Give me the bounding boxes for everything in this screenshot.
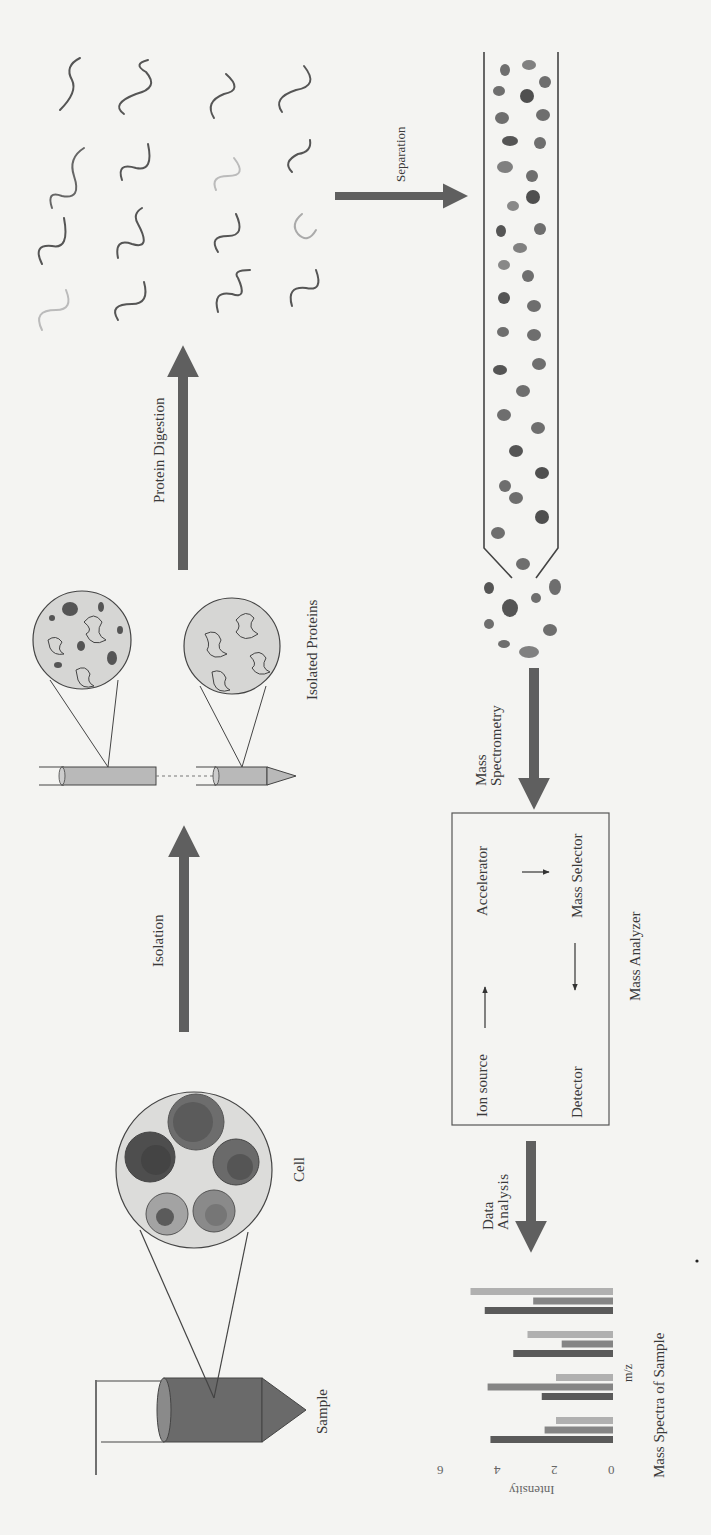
ytick-label: 6 [437,1464,444,1477]
isolation-label: Isolation [151,915,166,968]
peptides-icon [39,58,319,330]
data-analysis-line2: Analysis [496,1174,511,1231]
chart-ylabel: Intensity [509,1484,555,1497]
chart-xlabel: m/z [622,1364,634,1382]
sample-label: Sample [315,1389,330,1434]
workflow-graphics [0,0,711,1535]
ytick-label: 0 [608,1464,615,1477]
mass-selector-label: Mass Selector [570,833,585,918]
isolated-proteins-label: Isolated Proteins [305,600,320,700]
isolated-proteins-icon [33,591,296,785]
data-analysis-label: Data Analysis [481,1174,511,1231]
bar-series-light-3 [528,1331,614,1338]
cell-icon [116,1092,272,1248]
sample-tube-icon [96,1378,306,1475]
detector-label: Detector [570,1066,585,1118]
bar-series-dark-3 [513,1350,613,1357]
chart-title: Mass Spectra of Sample [652,1333,667,1478]
bar-series-light-1 [556,1417,613,1424]
separation-label: Separation [394,126,407,182]
bar-series-dark-1 [490,1436,613,1443]
bar-series-mid-4 [533,1298,613,1305]
bar-series-light-4 [471,1288,614,1295]
mass-spectra-chart [471,1288,614,1443]
accelerator-label: Accelerator [475,846,490,916]
mass-spectrometry-line1: Mass [474,705,489,786]
data-analysis-line1: Data [481,1174,496,1231]
protein-digestion-label: Protein Digestion [152,398,167,503]
bar-series-mid-2 [488,1384,613,1391]
bar-series-dark-4 [485,1307,613,1314]
cell-label: Cell [292,1157,307,1182]
ytick-label: 2 [551,1464,558,1477]
ytick-label: 4 [494,1464,501,1477]
mass-spectrometry-line2: Spectrometry [489,705,504,786]
bar-series-mid-3 [562,1341,613,1348]
bar-series-dark-2 [542,1393,613,1400]
bar-series-light-2 [556,1374,613,1381]
ion-source-label: Ion source [475,1054,490,1117]
mass-spectrometry-label: Mass Spectrometry [474,705,504,786]
separation-column-icon [484,52,561,658]
bar-series-mid-1 [545,1427,613,1434]
mass-analyzer-label: Mass Analyzer [628,911,643,1001]
